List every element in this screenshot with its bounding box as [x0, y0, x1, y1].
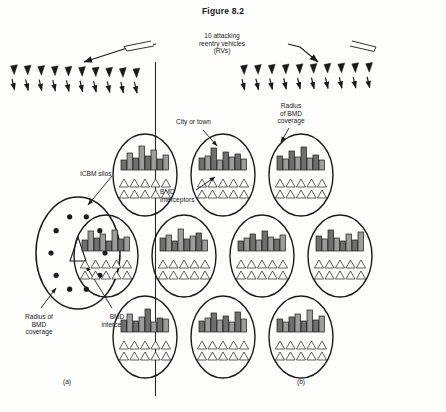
city-skyline	[277, 310, 325, 332]
building	[223, 152, 229, 170]
defended-city	[308, 215, 372, 297]
defended-city	[191, 134, 255, 216]
building	[190, 236, 196, 251]
building	[319, 160, 325, 170]
reentry-vehicle	[296, 64, 303, 89]
city-skyline	[277, 147, 325, 170]
reentry-vehicle	[268, 64, 275, 89]
bmd-coverage-oval	[113, 134, 177, 216]
reentry-vehicle	[24, 65, 31, 90]
bmd-interceptor	[268, 260, 277, 268]
bmd-interceptor	[122, 260, 131, 268]
bmd-interceptors	[197, 179, 248, 198]
building	[106, 241, 112, 251]
bmd-interceptors	[158, 260, 209, 279]
bmd-interceptor	[101, 260, 110, 268]
bmd-interceptor	[151, 352, 160, 360]
city-skyline	[82, 230, 130, 251]
reentry-vehicle	[255, 65, 262, 90]
building	[145, 309, 151, 332]
bmd-coverage-oval	[191, 134, 255, 216]
building	[289, 151, 295, 170]
bmd-interceptor	[208, 179, 217, 187]
bmd-interceptor	[278, 260, 287, 268]
reentry-vehicle	[38, 66, 45, 91]
bmd-interceptors	[314, 260, 365, 279]
building	[256, 240, 262, 251]
building	[301, 147, 307, 170]
bmd-interceptor	[140, 190, 149, 198]
bmd-interceptor	[335, 260, 344, 268]
bmd-interceptor	[218, 190, 227, 198]
bmd-interceptor	[151, 179, 160, 187]
building	[313, 320, 319, 332]
bmd-interceptor	[91, 260, 100, 268]
bmd-interceptor	[236, 271, 245, 279]
defended-city	[113, 134, 177, 216]
defended-city	[269, 134, 333, 216]
building	[229, 157, 235, 170]
bmd-interceptor	[130, 352, 139, 360]
building	[196, 233, 202, 251]
bmd-interceptor	[101, 271, 110, 279]
building	[274, 239, 280, 251]
bmd-interceptor	[130, 179, 139, 187]
building	[295, 157, 301, 170]
building	[139, 317, 145, 332]
bmd-interceptor	[179, 271, 188, 279]
bmd-interceptor	[161, 179, 170, 187]
building	[235, 154, 241, 170]
bmd-interceptor	[296, 352, 305, 360]
building	[163, 155, 169, 170]
city-skyline	[316, 230, 364, 251]
building	[94, 238, 100, 251]
reentry-vehicle	[106, 67, 113, 92]
rv-pointer-arrow-left	[84, 41, 156, 62]
bmd-interceptor	[151, 190, 160, 198]
bmd-interceptor	[119, 179, 128, 187]
reentry-vehicle	[310, 64, 317, 89]
bmd-interceptor	[151, 341, 160, 349]
building	[157, 318, 163, 332]
building	[178, 229, 184, 251]
bmd-interceptor	[325, 260, 334, 268]
building	[301, 321, 307, 332]
bmd-interceptor	[346, 271, 355, 279]
building	[82, 240, 88, 251]
building	[172, 241, 178, 251]
city-skyline	[238, 231, 286, 251]
bmd-interceptor	[208, 352, 217, 360]
bmd-interceptor	[317, 352, 326, 360]
reentry-vehicle	[352, 63, 359, 88]
bmd-interceptors	[275, 179, 326, 198]
bmd-interceptor	[275, 352, 284, 360]
reentry-vehicle	[51, 66, 58, 91]
building	[307, 310, 313, 332]
building	[334, 238, 340, 251]
bmd-interceptor	[112, 271, 121, 279]
building	[205, 156, 211, 170]
bmd-interceptor	[122, 271, 131, 279]
building	[127, 314, 133, 332]
bmd-coverage-oval	[230, 215, 294, 297]
bmd-interceptor	[236, 260, 245, 268]
icbm-silo	[54, 228, 59, 233]
bmd-interceptor	[307, 352, 316, 360]
city-skyline	[160, 229, 208, 251]
bmd-interceptor	[140, 341, 149, 349]
building	[244, 238, 250, 251]
bmd-interceptor	[296, 341, 305, 349]
bmd-interceptor	[257, 271, 266, 279]
bmd-interceptor	[286, 352, 295, 360]
reentry-vehicle	[366, 63, 373, 88]
bmd-interceptors	[236, 260, 287, 279]
bmd-interceptor	[169, 260, 178, 268]
bmd-interceptor	[161, 352, 170, 360]
icbm-silo	[84, 214, 89, 219]
bmd-interceptor	[197, 352, 206, 360]
bmd-interceptor	[190, 260, 199, 268]
reentry-vehicle	[241, 65, 248, 90]
bmd-interceptor	[307, 341, 316, 349]
building	[133, 158, 139, 170]
bmd-interceptor	[356, 271, 365, 279]
